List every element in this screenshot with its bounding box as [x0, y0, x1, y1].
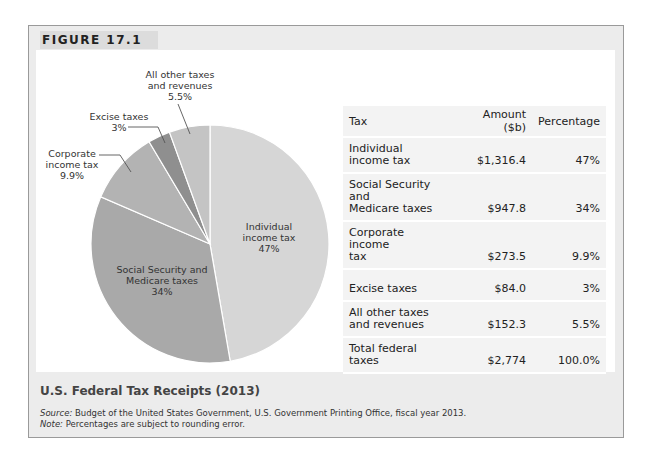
table-row-total: Total federaltaxes $2,774 100.0%	[343, 337, 606, 373]
cell-amount: $273.5	[454, 221, 533, 269]
cell-tax: Corporate incometax	[343, 221, 454, 269]
cell-amount: $2,774	[454, 337, 533, 373]
note-line: Note: Percentages are subject to roundin…	[40, 419, 466, 430]
table-row: Corporate incometax $273.5 9.9%	[343, 221, 606, 269]
label-line: income tax	[44, 159, 100, 170]
header-tax: Tax	[343, 106, 454, 137]
label-line: Medicare taxes	[112, 275, 212, 286]
label-line: income tax	[232, 232, 306, 243]
label-line: and revenues	[140, 80, 220, 91]
cell-tax: Excise taxes	[343, 269, 454, 301]
label-line: 34%	[112, 286, 212, 297]
header-amount: Amount ($b)	[454, 106, 533, 137]
label-line: 47%	[232, 243, 306, 254]
cell-pct: 9.9%	[532, 221, 606, 269]
table-row: Social Security andMedicare taxes $947.8…	[343, 173, 606, 221]
cell-line: taxes	[349, 355, 448, 367]
label-line: Excise taxes	[84, 111, 154, 122]
label-line: Individual	[232, 221, 306, 232]
cell-line: income tax	[349, 155, 448, 167]
cell-amount: $152.3	[454, 301, 533, 337]
source-note: Source: Budget of the United States Gove…	[40, 408, 466, 430]
cell-pct: 5.5%	[532, 301, 606, 337]
cell-tax: Social Security andMedicare taxes	[343, 173, 454, 221]
label-line: 5.5%	[140, 91, 220, 102]
cell-pct: 47%	[532, 137, 606, 173]
cell-line: tax	[349, 251, 448, 263]
header-percentage: Percentage	[532, 106, 606, 137]
figure-caption: U.S. Federal Tax Receipts (2013)	[40, 384, 260, 398]
note-label: Note:	[40, 419, 63, 429]
cell-tax: Individualincome tax	[343, 137, 454, 173]
cell-line: and revenues	[349, 319, 448, 331]
cell-tax: All other taxesand revenues	[343, 301, 454, 337]
cell-line: Medicare taxes	[349, 203, 448, 215]
source-text: Budget of the United States Government, …	[72, 408, 466, 418]
table-row: Individualincome tax $1,316.4 47%	[343, 137, 606, 173]
cell-amount: $1,316.4	[454, 137, 533, 173]
label-line: All other taxes	[140, 69, 220, 80]
cell-amount: $947.8	[454, 173, 533, 221]
cell-line: Excise taxes	[349, 283, 448, 295]
cell-line: Corporate income	[349, 227, 448, 251]
label-line: Social Security and	[112, 264, 212, 275]
table-row: Excise taxes $84.0 3%	[343, 269, 606, 301]
cell-line: Social Security and	[349, 179, 448, 203]
label-line: 9.9%	[44, 170, 100, 181]
label-excise: Excise taxes 3%	[84, 111, 154, 133]
label-corporate: Corporate income tax 9.9%	[44, 148, 100, 181]
cell-pct: 34%	[532, 173, 606, 221]
table-header-row: Tax Amount ($b) Percentage	[343, 106, 606, 137]
label-social-security: Social Security and Medicare taxes 34%	[112, 264, 212, 297]
table-row: All other taxesand revenues $152.3 5.5%	[343, 301, 606, 337]
label-line: 3%	[84, 122, 154, 133]
cell-tax: Total federaltaxes	[343, 337, 454, 373]
label-line: Corporate	[44, 148, 100, 159]
tax-table: Tax Amount ($b) Percentage Individualinc…	[343, 106, 606, 374]
cell-pct: 3%	[532, 269, 606, 301]
note-text: Percentages are subject to rounding erro…	[63, 419, 245, 429]
cell-amount: $84.0	[454, 269, 533, 301]
cell-pct: 100.0%	[532, 337, 606, 373]
label-other: All other taxes and revenues 5.5%	[140, 69, 220, 102]
source-line: Source: Budget of the United States Gove…	[40, 408, 466, 419]
source-label: Source:	[40, 408, 72, 418]
label-individual: Individual income tax 47%	[232, 221, 306, 254]
